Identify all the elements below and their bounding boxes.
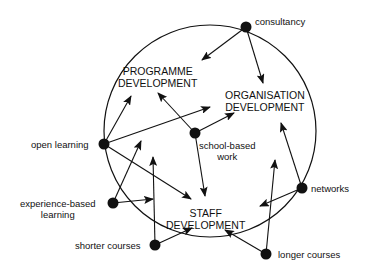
arrow-from-networks	[281, 123, 302, 188]
school-based-line1: school-based	[199, 140, 256, 151]
programme-development-label: PROGRAMME DEVELOPMENT	[118, 65, 197, 89]
arrow-from-school-based-work	[158, 93, 195, 133]
school-based-work-label: school-based work	[199, 140, 256, 162]
arrow-from-longer-courses	[266, 160, 275, 254]
organisation-development-label: ORGANISATION DEVELOPMENT	[225, 89, 305, 113]
node-dot-consultancy	[241, 22, 252, 33]
school-boundary-circle	[104, 25, 316, 237]
open-learning-label: open learning	[31, 139, 89, 150]
networks-label: networks	[311, 183, 349, 194]
node-dot-experience-based-learning	[108, 198, 119, 209]
node-dot-school-based-work	[190, 128, 201, 139]
diagram-canvas	[0, 0, 369, 276]
experience-based-line1: experience-based	[20, 198, 96, 209]
arrow-from-experience-based-learning	[113, 199, 153, 203]
node-dot-shorter-courses	[150, 240, 161, 251]
experience-based-learning-label: experience-based learning	[20, 198, 96, 220]
node-dot-longer-courses	[261, 249, 272, 260]
arrow-from-shorter-courses	[153, 157, 155, 245]
staff-line1: STAFF	[166, 207, 245, 219]
organisation-line2: DEVELOPMENT	[225, 101, 305, 113]
staff-line2: DEVELOPMENT	[166, 219, 245, 231]
programme-line2: DEVELOPMENT	[118, 77, 197, 89]
arrow-from-experience-based-learning	[113, 141, 141, 203]
arrow-from-consultancy	[202, 27, 246, 60]
arrow-from-open-learning	[104, 107, 210, 144]
longer-courses-label: longer courses	[278, 249, 340, 260]
organisation-line1: ORGANISATION	[225, 89, 305, 101]
shorter-courses-label: shorter courses	[75, 240, 140, 251]
arrow-from-longer-courses	[225, 230, 266, 254]
school-based-line2: work	[199, 151, 256, 162]
node-dot-open-learning	[99, 139, 110, 150]
consultancy-label: consultancy	[255, 16, 305, 27]
arrow-from-school-based-work	[195, 113, 234, 133]
arrow-from-networks	[260, 188, 302, 206]
experience-based-line2: learning	[20, 209, 96, 220]
node-dot-networks	[297, 183, 308, 194]
arrow-from-open-learning	[104, 144, 191, 199]
staff-development-label: STAFF DEVELOPMENT	[166, 207, 245, 231]
programme-line1: PROGRAMME	[118, 65, 197, 77]
